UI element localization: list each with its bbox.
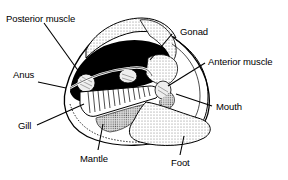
label-anus: Anus (13, 70, 34, 80)
label-anterior-muscle: Anterior muscle (208, 57, 273, 67)
clam-illustration (0, 0, 288, 180)
label-gill: Gill (18, 121, 31, 131)
label-mantle: Mantle (80, 154, 108, 164)
label-posterior-muscle: Posterior muscle (6, 14, 75, 24)
label-mouth: Mouth (216, 102, 242, 112)
clam-anatomy-diagram: Posterior muscle Gonad Anterior muscle A… (0, 0, 288, 180)
label-gonad: Gonad (180, 27, 208, 37)
label-foot: Foot (171, 158, 190, 168)
